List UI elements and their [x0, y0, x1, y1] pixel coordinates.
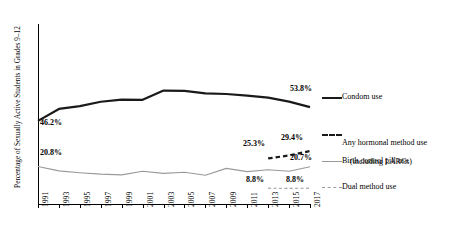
legend-item-dual-method-use[interactable]: Dual method use [322, 182, 396, 193]
series-line [38, 167, 310, 176]
data-label-condom-end: 53.8% [290, 84, 312, 93]
legend-label-condom: Condom use [342, 92, 382, 101]
legend-line-solid-thick-icon [322, 93, 342, 103]
legend-item-condom-use[interactable]: Condom use [322, 92, 382, 103]
data-label-hormonal-end: 29.4% [281, 133, 303, 142]
legend-item-birth-control-pill-use[interactable]: Birth control pill use [322, 156, 408, 167]
data-label-dual-end: 8.8% [286, 175, 304, 184]
data-label-condom-start: 46.2% [40, 118, 62, 127]
series-plot-area [0, 0, 466, 238]
legend-line-dashed-thin-icon [322, 183, 342, 193]
data-label-hormonal-start: 25.3% [243, 139, 265, 148]
legend-label-pill: Birth control pill use [342, 156, 408, 165]
line-chart: Percentage of Sexually Active Students i… [0, 0, 466, 238]
legend-label-dual: Dual method use [342, 182, 396, 191]
series-line [38, 91, 310, 121]
data-label-pill-start: 20.8% [40, 148, 62, 157]
legend-line-dashed-thick-icon [322, 130, 342, 140]
legend-label-hormonal-line1: Any hormonal method use [342, 138, 427, 147]
data-label-dual-start: 8.8% [246, 175, 264, 184]
legend-line-solid-thin-icon [322, 157, 342, 167]
data-label-pill-end: 20.7% [290, 153, 312, 162]
